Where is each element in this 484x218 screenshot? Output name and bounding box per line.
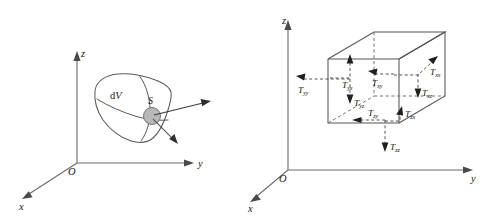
panel-differential-volume: z y x O dV S — [0, 0, 242, 218]
stress-label-T-xz: Txz — [422, 88, 433, 99]
figure-root: z y x O dV S — [0, 0, 484, 218]
stress-label-T-yx: Tyx — [342, 80, 353, 91]
stress-label-T-yz: Tyz — [354, 98, 365, 109]
origin-label-left: O — [68, 166, 76, 177]
z-axis-left — [73, 51, 80, 163]
normal-vector-lower — [153, 119, 178, 144]
stress-label-T-zz: Tzz — [390, 142, 400, 153]
stress-arrow-T-zz — [382, 120, 389, 152]
y-axis-label-left: y — [197, 158, 203, 169]
stress-arrow-T-xz — [415, 74, 422, 98]
z-axis-label-right: z — [281, 15, 286, 26]
stress-label-T-zy: Tzy — [368, 108, 378, 119]
stress-arrow-T-yx — [330, 54, 353, 78]
stress-arrow-T-yz — [347, 79, 354, 104]
z-axis-label-left: z — [80, 48, 85, 59]
y-axis-right — [288, 166, 473, 173]
cube-wireframe — [328, 32, 445, 123]
x-axis-label-left: x — [18, 201, 24, 212]
stress-arrow-T-xy — [368, 69, 394, 76]
x-axis-label-right: x — [247, 203, 253, 214]
y-axis-label-right: y — [470, 173, 476, 184]
stress-label-T-yy: Tyy — [298, 85, 309, 96]
stress-label-T-xy: Txy — [372, 78, 383, 89]
z-axis-right — [284, 20, 291, 170]
traction-vector-upper — [154, 99, 211, 115]
surface-patch-circle — [144, 108, 161, 125]
stress-label-T-xx: Txx — [430, 67, 441, 78]
stress-label-T-zx: Tzx — [405, 109, 415, 120]
volume-label: dV — [110, 90, 123, 101]
panel-stress-cube: z y x O — [242, 0, 484, 218]
origin-label-right: O — [279, 173, 287, 184]
volume-element-blob — [95, 74, 171, 142]
surface-patch-label: S — [148, 95, 153, 106]
stress-arrow-T-zx — [385, 106, 403, 121]
y-axis-left — [77, 159, 194, 166]
